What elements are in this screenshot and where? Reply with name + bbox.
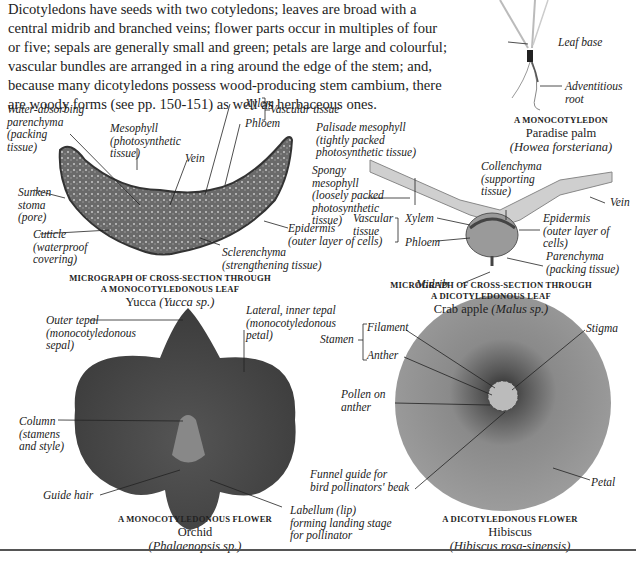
label-outer-tepal: Outer tepal (monocotyledonous sepal) <box>46 314 136 352</box>
label-epidermis-crabapple: Epidermis (outer layer of cells) <box>543 212 609 250</box>
yucca-caption-heading-2: A MONOCOTYLEDONOUS LEAF <box>60 284 280 295</box>
label-palisade-mesophyll: Palisade mesophyll (tightly packed photo… <box>316 121 416 159</box>
palm-caption: A MONOCOTYLEDON Paradise palm (Howea for… <box>486 115 636 154</box>
orchid-caption-heading: A MONOCOTYLEDONOUS FLOWER <box>100 514 290 525</box>
label-adventitious-root: Adventitious root <box>565 80 623 105</box>
label-pollen-on-anther: Pollen on anther <box>341 388 385 413</box>
label-phloem-crabapple: Phloem <box>405 236 440 249</box>
label-parenchyma: Parenchyma (packing tissue) <box>546 250 619 275</box>
label-vein: Vein <box>185 152 205 165</box>
palm-caption-latin: (Howea forsteriana) <box>510 140 612 154</box>
label-guide-hair: Guide hair <box>43 489 93 502</box>
label-collenchyma: Collenchyma (supporting tissue) <box>481 160 542 198</box>
label-column: Column (stamens and style) <box>19 415 64 453</box>
label-vascular-tissue-crabapple: Vascular tissue <box>353 212 393 237</box>
crabapple-caption-latin: (Malus sp.) <box>491 302 548 316</box>
crabapple-caption: MICROGRAPH OF CROSS-SECTION THROUGH A DI… <box>376 280 606 316</box>
label-labellum: Labellum (lip) forming landing stage for… <box>290 504 392 542</box>
label-phloem: Phloem <box>245 117 280 130</box>
label-cuticle: Cuticle (waterproof covering) <box>33 228 88 266</box>
yucca-caption-heading-1: MICROGRAPH OF CROSS-SECTION THROUGH <box>60 273 280 284</box>
bottom-rule-divider <box>0 549 636 551</box>
palm-seedling-illustration <box>500 0 548 110</box>
label-petal: Petal <box>591 476 615 489</box>
label-xylem-crabapple: Xylem <box>405 212 434 225</box>
yucca-caption-latin: (Yucca sp.) <box>159 295 214 309</box>
crabapple-caption-heading-1: MICROGRAPH OF CROSS-SECTION THROUGH <box>376 280 606 291</box>
hibiscus-caption: A DICOTYLEDONOUS FLOWER Hibiscus (Hibisc… <box>420 514 600 553</box>
label-vein-crabapple: Vein <box>610 196 630 209</box>
crabapple-caption-name: Crab apple <box>434 302 489 316</box>
hibiscus-caption-heading: A DICOTYLEDONOUS FLOWER <box>420 514 600 525</box>
label-stamen: Stamen <box>320 333 354 346</box>
orchid-caption: A MONOCOTYLEDONOUS FLOWER Orchid (Phalae… <box>100 514 290 553</box>
label-stigma: Stigma <box>586 322 618 335</box>
label-mesophyll: Mesophyll (photosynthetic tissue) <box>110 122 181 160</box>
label-leaf-base: Leaf base <box>558 36 602 49</box>
crabapple-caption-heading-2: A DICOTYLEDONOUS LEAF <box>376 291 606 302</box>
label-anther: Anther <box>367 349 398 362</box>
label-sclerenchyma: Sclerenchyma (strengthening tissue) <box>222 246 322 271</box>
label-funnel-guide: Funnel guide for bird pollinators' beak <box>310 468 409 493</box>
label-filament: Filament <box>367 321 409 334</box>
label-water-absorbing-parenchyma: Water-absorbing parenchyma (packing tiss… <box>7 103 84 153</box>
yucca-caption-name: Yucca <box>126 295 157 309</box>
hibiscus-caption-name: Hibiscus <box>420 525 600 539</box>
label-vascular-tissue: Vascular tissue <box>270 103 339 116</box>
label-sunken-stoma: Sunken stoma (pore) <box>18 186 51 224</box>
orchid-caption-name: Orchid <box>100 525 290 539</box>
palm-caption-heading: A MONOCOTYLEDON <box>486 115 636 126</box>
palm-caption-name: Paradise palm <box>486 126 636 140</box>
